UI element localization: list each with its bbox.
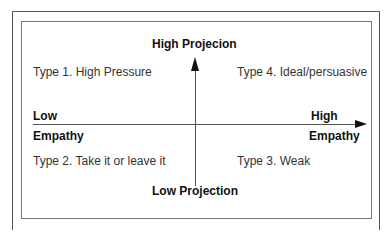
high-label: High: [311, 109, 338, 123]
quadrant-type-3: Type 3. Weak: [237, 154, 310, 168]
arrow-right-icon: [355, 120, 367, 128]
low-label: Low: [33, 109, 57, 123]
projection-axis: [195, 62, 196, 186]
quadrant-type-1: Type 1. High Pressure: [33, 65, 152, 79]
empathy-label-left: Empathy: [33, 129, 84, 143]
empathy-label-right: Empathy: [309, 129, 360, 143]
high-projection-label: High Projecion: [152, 37, 237, 51]
low-projection-label: Low Projection: [152, 184, 238, 198]
quadrant-type-4: Type 4. Ideal/persuasive: [237, 65, 367, 79]
arrow-up-icon: [191, 57, 199, 71]
quadrant-type-2: Type 2. Take it or leave it: [33, 154, 166, 168]
